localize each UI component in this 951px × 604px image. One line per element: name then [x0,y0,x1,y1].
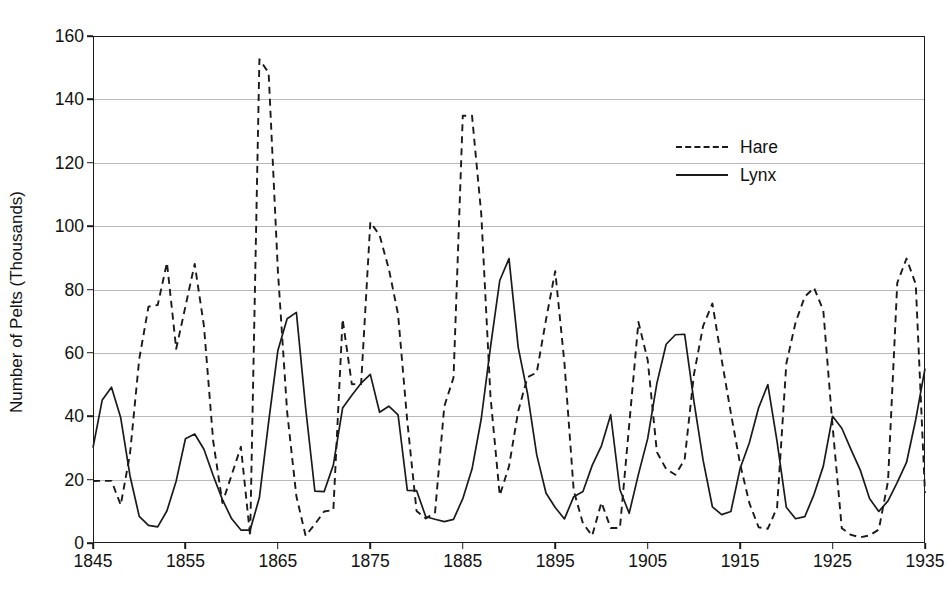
x-tick-mark [92,543,94,549]
x-tick-label: 1905 [628,551,667,572]
x-tick-mark [647,543,649,549]
x-tick-mark [739,543,741,549]
chart-figure: Number of Pelts (Thousands) 020406080100… [0,0,951,604]
x-tick-mark [185,543,187,549]
series-layer [0,0,951,604]
x-tick-label: 1925 [813,551,852,572]
y-tick-mark [87,415,93,417]
y-tick-mark [87,99,93,101]
x-tick-mark [462,543,464,549]
chart-legend: Hare Lynx [676,133,826,189]
x-tick-mark [554,543,556,549]
solid-line-icon [676,174,728,176]
x-tick-label: 1855 [166,551,205,572]
x-tick-label: 1885 [443,551,482,572]
x-tick-label: 1875 [351,551,390,572]
y-tick-mark [87,479,93,481]
x-tick-label: 1845 [74,551,113,572]
x-tick-mark [924,543,926,549]
y-tick-mark [87,225,93,227]
x-tick-label: 1865 [258,551,297,572]
y-tick-mark [87,35,93,37]
x-tick-mark [277,543,279,549]
legend-label-hare: Hare [740,137,778,158]
y-tick-mark [87,162,93,164]
x-tick-label: 1895 [536,551,575,572]
legend-entry-lynx: Lynx [676,161,826,189]
series-hare [93,59,925,537]
y-tick-mark [87,542,93,544]
y-tick-mark [87,352,93,354]
x-tick-label: 1935 [906,551,945,572]
dashed-line-icon [676,146,728,148]
x-tick-mark [370,543,372,549]
x-tick-mark [832,543,834,549]
x-tick-label: 1915 [721,551,760,572]
y-tick-mark [87,289,93,291]
legend-entry-hare: Hare [676,133,826,161]
legend-label-lynx: Lynx [740,165,776,186]
series-lynx [93,259,925,531]
